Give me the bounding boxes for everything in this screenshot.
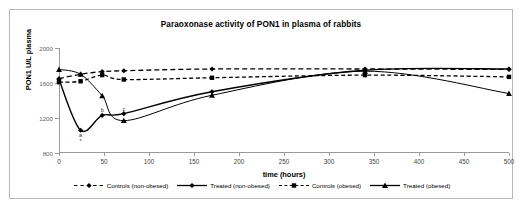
x-tick <box>329 153 330 156</box>
x-tick-label: 0 <box>57 158 61 165</box>
series-controls-obesed <box>57 73 511 84</box>
chart-title: Paraoxonase activity of PON1 in plasma o… <box>10 20 512 29</box>
x-tick-label: 250 <box>279 158 290 165</box>
data-point-triangle <box>56 67 62 72</box>
plot-area: 800120016002000 050100150200250300350400… <box>59 48 509 153</box>
data-point-diamond <box>209 66 214 71</box>
x-tick <box>239 153 240 156</box>
data-point-square <box>122 77 126 81</box>
data-point-square <box>210 76 214 80</box>
legend-item[interactable]: Controls (obesed) <box>279 181 361 190</box>
legend-key-solid-diamond <box>177 181 207 190</box>
chart-annotation: b <box>101 107 104 113</box>
x-tick <box>149 153 150 156</box>
data-point-square <box>100 73 104 77</box>
series-line <box>59 69 509 79</box>
chart-legend: Controls (non-obesed)Treated (non-obesed… <box>10 181 514 190</box>
legend-item[interactable]: Treated (non-obesed) <box>177 181 270 190</box>
y-tick-label: 2000 <box>39 45 53 52</box>
data-point-square <box>57 80 61 84</box>
x-tick-label: 500 <box>504 158 515 165</box>
y-tick-label: 1600 <box>39 80 53 87</box>
x-tick-label: 300 <box>324 158 335 165</box>
x-tick-label: 200 <box>234 158 245 165</box>
x-tick <box>104 153 105 156</box>
data-point-diamond <box>506 66 511 71</box>
x-tick <box>419 153 420 156</box>
series-line <box>59 68 509 131</box>
x-tick-label: 50 <box>100 158 107 165</box>
data-point-square <box>507 75 511 79</box>
chart-annotation: c <box>122 106 125 112</box>
x-axis-label: time (hours) <box>59 170 509 179</box>
x-tick <box>374 153 375 156</box>
x-tick <box>284 153 285 156</box>
x-tick <box>464 153 465 156</box>
legend-label: Treated (non-obesed) <box>210 182 270 189</box>
series-layer <box>59 48 509 153</box>
x-tick-label: 100 <box>144 158 155 165</box>
x-tick-label: 350 <box>369 158 380 165</box>
x-tick <box>59 153 60 156</box>
legend-key-solid-triangle <box>370 181 400 190</box>
y-axis-label: PON1 U/L plasma <box>24 10 33 110</box>
data-point-diamond <box>121 68 126 73</box>
legend-label: Controls (non-obesed) <box>107 182 169 189</box>
data-point-square <box>78 79 82 83</box>
chart-annotation: a <box>79 132 82 138</box>
x-tick-label: 450 <box>459 158 470 165</box>
y-tick-label: 1200 <box>39 115 53 122</box>
chart-annotation: * <box>80 138 82 144</box>
x-tick <box>509 153 510 156</box>
legend-label: Controls (obesed) <box>312 182 361 189</box>
x-tick <box>194 153 195 156</box>
chart-frame: Paraoxonase activity of PON1 in plasma o… <box>9 9 513 199</box>
legend-label: Treated (obesed) <box>403 182 450 189</box>
legend-item[interactable]: Controls (non-obesed) <box>74 181 169 190</box>
x-tick-label: 150 <box>189 158 200 165</box>
x-tick-label: 400 <box>414 158 425 165</box>
legend-key-dashed-square <box>279 181 309 190</box>
legend-item[interactable]: Treated (obesed) <box>370 181 450 190</box>
legend-key-dashed-diamond <box>74 181 104 190</box>
series-line <box>59 75 509 82</box>
y-tick-label: 800 <box>43 150 53 157</box>
